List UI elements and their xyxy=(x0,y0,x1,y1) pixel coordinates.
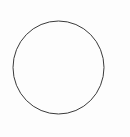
shape-layer xyxy=(0,0,130,137)
canvas-background xyxy=(0,0,130,137)
drawing-canvas xyxy=(0,0,130,137)
